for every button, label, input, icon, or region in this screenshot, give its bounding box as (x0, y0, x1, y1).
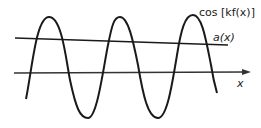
cosine-wave (26, 15, 217, 118)
envelope-label: a(x) (213, 32, 235, 43)
wave-label: cos [kf(x)] (199, 7, 255, 18)
arrow-head-icon (242, 69, 251, 75)
axis-label: x (237, 78, 244, 89)
x-axis (14, 69, 251, 75)
diagram-canvas (0, 0, 261, 128)
envelope-line (15, 38, 228, 45)
